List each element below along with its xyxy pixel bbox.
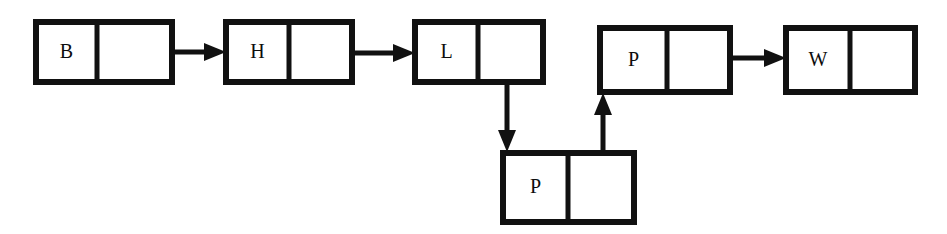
list-node: W [786,28,915,92]
pointer-arrowhead [594,93,612,115]
list-node: L [415,22,543,82]
list-node: B [36,22,172,82]
node-box [36,22,172,82]
pointer-arrowhead [204,43,226,61]
node-data-label: P [530,175,541,197]
node-data-label: H [250,40,264,62]
list-node: P [600,28,730,92]
node-data-label: L [440,40,452,62]
pointer-arrowhead [764,49,786,67]
diagram-canvas: BHLPPW [0,0,947,234]
node-data-label: W [809,48,828,70]
nodes-layer: BHLPPW [36,22,915,222]
linked-list-diagram: BHLPPW [0,0,947,234]
node-data-label: B [60,40,73,62]
pointer-arrowhead [393,44,415,62]
pointer-arrowhead [498,130,516,152]
list-node: P [503,153,634,222]
node-data-label: P [628,48,639,70]
list-node: H [226,22,352,82]
